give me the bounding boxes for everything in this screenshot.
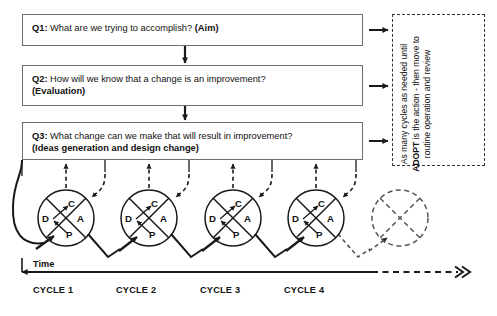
question-text-q3: Q3: What change can we make that will re… (32, 130, 356, 155)
question-label-q3: Q3: (32, 131, 48, 141)
question-text-q2: Q2: How will we know that a change is an… (32, 73, 356, 98)
question-label-q1: Q1: (32, 23, 48, 33)
pdsa-letter-d-cycle-1: D (42, 213, 49, 224)
arrow-into-cycle-2 (119, 237, 137, 251)
pdsa-circle-cycle-next (372, 190, 428, 246)
entry-curve-to-cycle-1 (13, 160, 44, 243)
question-body-q2: How will we know that a change is an imp… (48, 74, 266, 84)
time-axis (22, 258, 470, 278)
pdsa-letter-a-cycle-1: A (77, 213, 84, 224)
question-body-q3: What change can we make that will result… (48, 131, 293, 141)
question-body-q1: What are we trying to accomplish? (48, 23, 195, 33)
pdsa-letter-d-cycle-2: D (125, 213, 132, 224)
ramp-3-to-4 (255, 234, 287, 257)
cycle-label-4: CYCLE 4 (284, 285, 324, 295)
pdsa-letter-d-cycle-3: D (209, 213, 216, 224)
question-tail-q1: (Aim) (195, 23, 219, 33)
question-text-q1: Q1: What are we trying to accomplish? (A… (32, 22, 356, 34)
pdsa-letter-a-cycle-4: A (327, 213, 334, 224)
pdsa-letter-c-cycle-3: C (235, 198, 242, 209)
pdsa-letter-p-cycle-1: P (66, 229, 72, 240)
side-note-after: is the action - then move to routine ope… (411, 36, 433, 158)
question-label-q2: Q2: (32, 74, 48, 84)
cycle-label-2: CYCLE 2 (116, 285, 156, 295)
arrow-into-cycle-3 (202, 237, 220, 251)
question-line2-q3: (Ideas generation and design change) (32, 143, 199, 153)
pdsa-model-for-improvement-diagram: Q1: What are we trying to accomplish? (A… (0, 0, 497, 316)
side-note-text: As many cycles as needed until ADOPT is … (399, 29, 479, 179)
pdsa-letter-a-cycle-2: A (160, 213, 167, 224)
question-line2-q2: (Evaluation) (32, 86, 85, 96)
time-axis-label: Time (33, 259, 54, 269)
side-note-box: As many cycles as needed until ADOPT is … (392, 14, 485, 166)
question-box-q1: Q1: What are we trying to accomplish? (A… (22, 14, 363, 46)
arrow-q3-to-cycle-1 (92, 174, 105, 197)
cycle-label-1: CYCLE 1 (33, 285, 73, 295)
arrow-q3-to-cycle-2 (176, 174, 189, 197)
pdsa-letter-c-cycle-4: C (318, 198, 325, 209)
pdsa-letter-p-cycle-3: P (233, 229, 239, 240)
ramp-4-to-next (338, 234, 387, 257)
cycle-label-3: CYCLE 3 (200, 285, 240, 295)
side-note-before: As many cycles as needed until (399, 44, 409, 164)
pdsa-letter-a-cycle-3: A (244, 213, 251, 224)
pdsa-letter-p-cycle-4: P (316, 229, 322, 240)
q3-bottom-ticks (22, 160, 356, 176)
arrow-into-cycle-next (369, 238, 387, 251)
cycle-ramp-connectors (88, 234, 304, 257)
pdsa-letter-c-cycle-1: C (68, 198, 75, 209)
arrow-q3-to-cycle-3 (259, 174, 272, 197)
ramp-2-to-3 (171, 234, 203, 257)
question-box-q3: Q3: What change can we make that will re… (22, 122, 363, 160)
side-note-arrows (369, 30, 388, 141)
pdsa-letter-p-cycle-2: P (149, 229, 155, 240)
pdsa-letter-d-cycle-4: D (292, 213, 299, 224)
pdsa-letter-c-cycle-2: C (151, 198, 158, 209)
arrow-into-cycle-4 (286, 237, 304, 251)
question-box-q2: Q2: How will we know that a change is an… (22, 65, 363, 106)
arrow-q3-to-cycle-4 (343, 174, 356, 197)
side-note-emphasis: ADOPT (411, 142, 421, 172)
ramp-1-to-2 (88, 234, 120, 257)
